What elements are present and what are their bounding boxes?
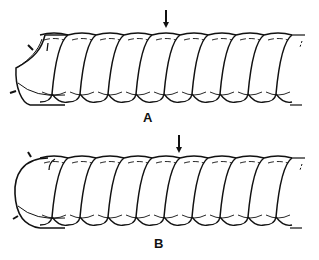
panel-label-b: B [154, 236, 163, 251]
coil-diagram-b [13, 152, 305, 228]
arrow-marker-a [163, 10, 169, 28]
spiral-coil-diagram [0, 0, 319, 260]
arrow-marker-b [176, 135, 182, 153]
panel-label-a: A [143, 110, 152, 125]
coil-diagram-a [10, 33, 305, 105]
